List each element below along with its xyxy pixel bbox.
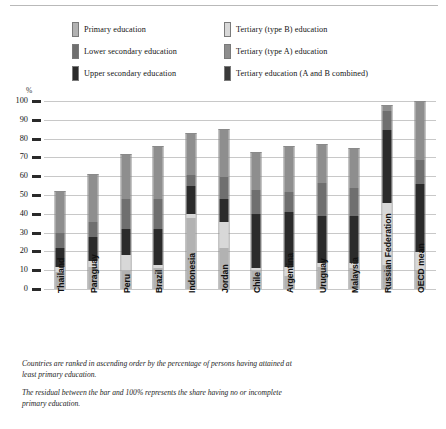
bar-slot: Brazil xyxy=(142,101,175,289)
y-axis-label-80: 80 xyxy=(20,135,28,143)
footnote-2: The residual between the bar and 100% re… xyxy=(22,387,292,409)
bar-slot: Russian Federation xyxy=(371,101,404,289)
bar-segment-tertiary_a xyxy=(154,147,163,199)
y-axis-label-10: 10 xyxy=(20,266,28,274)
bar-segment-lower_secondary xyxy=(252,190,261,214)
bar-segment-upper_secondary xyxy=(186,186,195,214)
legend-item-upper_secondary: Upper secondary education xyxy=(72,66,224,81)
x-axis-label: Brazil xyxy=(154,270,164,293)
tick-mark-10 xyxy=(32,269,41,272)
gridline-0 xyxy=(44,289,436,290)
legend-swatch-tertiary_a xyxy=(224,44,231,59)
bar-slot: Thailand xyxy=(44,101,77,289)
legend-swatch-upper_secondary xyxy=(72,66,79,81)
bar-segment-upper_secondary xyxy=(219,199,228,221)
bar-segment-lower_secondary xyxy=(88,222,97,237)
y-axis-label-70: 70 xyxy=(20,153,28,161)
y-axis-unit: % xyxy=(26,86,32,95)
bar-segment-lower_secondary xyxy=(186,175,195,186)
bar-segment-lower_secondary xyxy=(317,183,326,217)
x-axis-label: OECD mean xyxy=(416,243,426,293)
legend-label-lower_secondary: Lower secondary education xyxy=(84,47,177,56)
bar-segment-upper_secondary xyxy=(317,216,326,263)
legend-label-upper_secondary: Upper secondary education xyxy=(84,69,176,78)
x-axis-label: Peru xyxy=(122,274,132,293)
legend-item-lower_secondary: Lower secondary education xyxy=(72,44,224,59)
legend-label-primary: Primary education xyxy=(84,25,146,34)
bar-slot: Peru xyxy=(109,101,142,289)
legend-item-primary: Primary education xyxy=(72,22,224,37)
bar-segment-lower_secondary xyxy=(121,199,130,229)
bar-segment-tertiary_a xyxy=(415,102,424,160)
chart-page: Primary educationTertiary (type B) educa… xyxy=(0,0,446,429)
bar-slot: Argentina xyxy=(273,101,306,289)
tick-mark-80 xyxy=(32,138,41,141)
y-axis-label-50: 50 xyxy=(20,191,28,199)
bar-segment-upper_secondary xyxy=(121,229,130,255)
legend-item-tertiary_ab: Tertiary education (A and B combined) xyxy=(224,66,432,81)
footnote-1: Countries are ranked in ascending order … xyxy=(22,358,292,380)
tick-mark-90 xyxy=(32,119,41,122)
chart-footnotes: Countries are ranked in ascending order … xyxy=(22,358,292,416)
y-axis-label-0: 0 xyxy=(24,285,28,293)
legend-label-tertiary_a: Tertiary (type A) education xyxy=(236,47,327,56)
bar-segment-tertiary_a xyxy=(252,153,261,190)
bar-segment-tertiary_a xyxy=(56,192,65,233)
bar-segment-lower_secondary xyxy=(219,177,228,199)
x-axis-label: Chile xyxy=(252,272,262,293)
bar-segment-upper_secondary xyxy=(382,130,391,203)
bar-slot: Paraguay xyxy=(77,101,110,289)
legend-item-tertiary_a: Tertiary (type A) education xyxy=(224,44,432,59)
y-axis-label-90: 90 xyxy=(20,116,28,124)
bar-segment-lower_secondary xyxy=(284,192,293,213)
bars-container: ThailandParaguayPeruBrazilIndonesiaJorda… xyxy=(44,101,436,289)
bar-segment-tertiary_a xyxy=(284,147,293,192)
bar-segment-lower_secondary xyxy=(350,188,359,216)
bar-segment-tertiary_a xyxy=(88,175,97,222)
tick-mark-60 xyxy=(32,175,41,178)
x-axis-label: Russian Federation xyxy=(383,213,393,293)
y-axis-label-40: 40 xyxy=(20,210,28,218)
y-axis-label-20: 20 xyxy=(20,247,28,255)
plot-area: 1009080706050403020100 ThailandParaguayP… xyxy=(44,101,436,289)
bar-segment-lower_secondary xyxy=(415,160,424,184)
bar-slot: Chile xyxy=(240,101,273,289)
bar-segment-lower_secondary xyxy=(154,199,163,229)
legend-swatch-tertiary_b xyxy=(224,22,231,37)
tick-mark-70 xyxy=(32,156,41,159)
x-axis-label: Thailand xyxy=(56,258,66,293)
legend-swatch-lower_secondary xyxy=(72,44,79,59)
tick-mark-30 xyxy=(32,232,41,235)
x-axis-label: Argentina xyxy=(285,253,295,293)
bar-segment-upper_secondary xyxy=(350,216,359,263)
bar-slot: Malaysia xyxy=(338,101,371,289)
bar-segment-tertiary_a xyxy=(317,145,326,182)
bar-slot: Uruguay xyxy=(305,101,338,289)
bar-segment-tertiary_b xyxy=(219,222,228,248)
tick-mark-20 xyxy=(32,250,41,253)
x-axis-label: Uruguay xyxy=(318,258,328,293)
x-axis-label: Jordan xyxy=(220,264,230,293)
stacked-bar[interactable] xyxy=(153,146,164,289)
bar-segment-lower_secondary xyxy=(382,111,391,130)
x-axis-label: Paraguay xyxy=(89,254,99,293)
bar-segment-upper_secondary xyxy=(154,229,163,264)
stacked-bar[interactable] xyxy=(251,152,262,289)
stacked-bar[interactable] xyxy=(120,154,131,289)
bar-slot: Indonesia xyxy=(175,101,208,289)
legend-swatch-primary xyxy=(72,22,79,37)
bar-segment-tertiary_a xyxy=(186,134,195,175)
x-axis-label: Indonesia xyxy=(187,253,197,293)
y-axis-label-30: 30 xyxy=(20,229,28,237)
legend-swatch-tertiary_ab xyxy=(224,66,231,81)
bar-segment-tertiary_a xyxy=(350,149,359,188)
y-axis-label-60: 60 xyxy=(20,172,28,180)
legend-label-tertiary_ab: Tertiary education (A and B combined) xyxy=(236,69,368,78)
legend-label-tertiary_b: Tertiary (type B) education xyxy=(236,25,327,34)
chart-legend: Primary educationTertiary (type B) educa… xyxy=(72,18,432,84)
y-axis-label-100: 100 xyxy=(16,97,28,105)
tick-mark-0 xyxy=(32,288,41,291)
bar-segment-upper_secondary xyxy=(415,184,424,251)
header-rule xyxy=(10,5,438,6)
bar-segment-upper_secondary xyxy=(252,214,261,268)
